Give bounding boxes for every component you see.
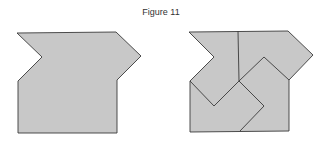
figure-canvas	[0, 0, 322, 141]
left-shape	[17, 32, 141, 133]
right-shape-outline	[189, 31, 313, 132]
